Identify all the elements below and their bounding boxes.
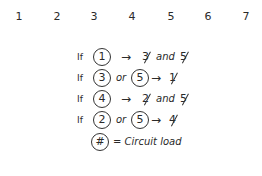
struck-output-4: 4 xyxy=(169,110,176,130)
number-3: 3 xyxy=(86,10,102,23)
circled-input-5: 5 xyxy=(131,111,149,129)
circled-input-5: 5 xyxy=(131,69,149,87)
rule-2: If 3 or 5 → 1 xyxy=(0,68,262,88)
number-6: 6 xyxy=(200,10,216,23)
rule-4: If 2 or 5 → 4 xyxy=(0,110,262,130)
rule-prefix: If xyxy=(77,47,83,67)
arrow-icon: → xyxy=(121,89,131,109)
rule-connector: or xyxy=(116,110,126,130)
legend: # = Circuit load xyxy=(0,132,262,152)
struck-output-3: 3 xyxy=(142,47,149,67)
rule-joiner: and xyxy=(156,47,175,67)
circled-input-2: 2 xyxy=(93,111,111,129)
struck-output-5: 5 xyxy=(180,89,187,109)
struck-output-2: 2 xyxy=(142,89,149,109)
number-7: 7 xyxy=(238,10,254,23)
circled-hash-symbol: # xyxy=(91,133,109,151)
number-4: 4 xyxy=(124,10,140,23)
rule-prefix: If xyxy=(77,68,83,88)
arrow-icon: → xyxy=(151,68,161,88)
arrow-icon: → xyxy=(121,47,131,67)
rule-connector: or xyxy=(116,68,126,88)
legend-text: = Circuit load xyxy=(113,132,182,152)
rule-3: If 4 → 2 and 5 xyxy=(0,89,262,109)
circled-input-1: 1 xyxy=(93,48,111,66)
circled-input-4: 4 xyxy=(93,90,111,108)
arrow-icon: → xyxy=(151,110,161,130)
struck-output-1: 1 xyxy=(169,68,176,88)
rule-1: If 1 → 3 and 5 xyxy=(0,47,262,67)
number-2: 2 xyxy=(49,10,65,23)
number-5: 5 xyxy=(163,10,179,23)
struck-output-5: 5 xyxy=(180,47,187,67)
rule-prefix: If xyxy=(77,89,83,109)
circled-input-3: 3 xyxy=(93,69,111,87)
number-1: 1 xyxy=(11,10,27,23)
rule-joiner: and xyxy=(156,89,175,109)
rule-prefix: If xyxy=(77,110,83,130)
